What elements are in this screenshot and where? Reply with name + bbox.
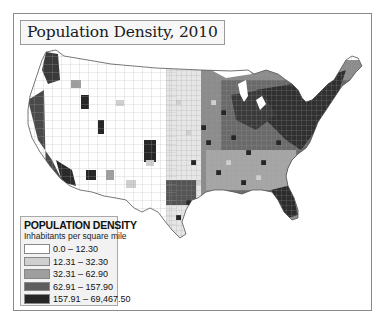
legend-row: 157.91 – 69,467.50 [24,293,114,305]
legend-label: 157.91 – 69,467.50 [53,294,131,304]
title-box: Population Density, 2010 [20,20,225,45]
legend-label: 12.31 – 32.30 [53,257,108,267]
legend-subtitle: Inhabitants per square mile [24,231,114,241]
legend-swatch [24,257,50,267]
legend-label: 62.91 – 157.90 [53,282,113,292]
legend-row: 62.91 – 157.90 [24,281,114,293]
legend-row: 0.0 – 12.30 [24,243,114,255]
legend-swatch [24,269,50,279]
map-title: Population Density, 2010 [27,23,218,41]
legend-label: 0.0 – 12.30 [53,244,98,254]
legend-swatch [24,244,50,254]
legend: POPULATION DENSITY Inhabitants per squar… [20,216,118,306]
legend-row: 32.31 – 62.90 [24,268,114,280]
legend-label: 32.31 – 62.90 [53,269,108,279]
legend-title: POPULATION DENSITY [24,220,114,231]
legend-row: 12.31 – 32.30 [24,256,114,268]
legend-swatch [24,282,50,292]
legend-swatch [24,294,50,304]
